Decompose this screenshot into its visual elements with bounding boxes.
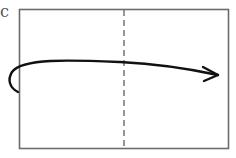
fold-diagram (0, 0, 236, 158)
fold-arrow-curve (10, 61, 218, 92)
